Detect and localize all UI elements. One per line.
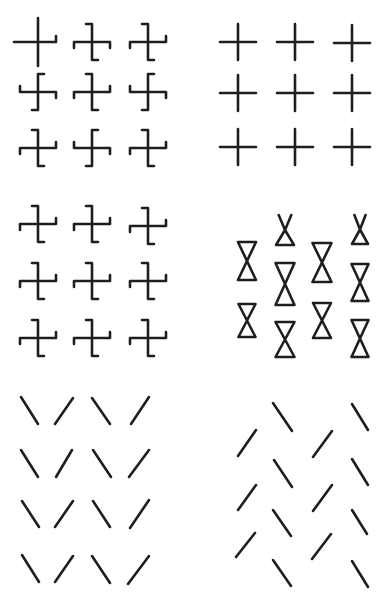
texture-segregation-figure	[0, 0, 387, 600]
figure-background	[0, 0, 387, 600]
